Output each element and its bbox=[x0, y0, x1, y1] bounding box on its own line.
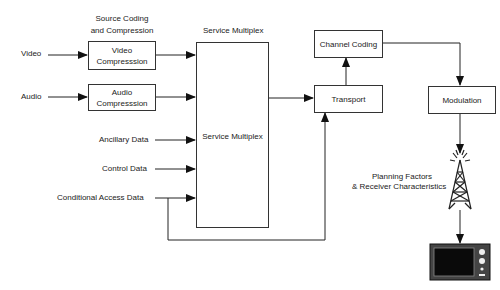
transport-label: Transport bbox=[332, 94, 366, 105]
input-label-conditional-access-data: Conditional Access Data bbox=[57, 193, 144, 203]
service-multiplex-box-label: Service Multiplex bbox=[202, 131, 262, 142]
modulation-label: Modulation bbox=[442, 95, 481, 106]
audio-compression-box: Audio Compresssion bbox=[88, 84, 156, 111]
television-icon bbox=[430, 244, 490, 280]
header-source-coding-line1: Source Coding bbox=[82, 14, 162, 24]
video-compression-box: Video Compresssion bbox=[88, 41, 156, 70]
service-multiplex-box: Service Multiplex bbox=[196, 42, 269, 228]
video-compression-line1: Video bbox=[112, 45, 132, 56]
planning-factors-line2: & Receiver Characteristics bbox=[352, 182, 440, 192]
channel-coding-box: Channel Coding bbox=[314, 30, 383, 58]
input-label-control-data: Control Data bbox=[102, 164, 147, 174]
channel-coding-label: Channel Coding bbox=[320, 39, 377, 50]
header-source-coding-line2: and Compression bbox=[82, 26, 162, 36]
transport-box: Transport bbox=[314, 85, 383, 113]
arrow-channel-to-modulation bbox=[382, 43, 460, 85]
modulation-box: Modulation bbox=[428, 86, 496, 114]
input-label-audio: Audio bbox=[21, 92, 41, 102]
planning-factors-line1: Planning Factors bbox=[352, 172, 440, 182]
input-label-ancillary-data: Ancillary Data bbox=[99, 135, 148, 145]
video-compression-line2: Compresssion bbox=[96, 56, 147, 67]
planning-factors-annotation: Planning Factors & Receiver Characterist… bbox=[352, 172, 440, 192]
transmitter-tower-icon bbox=[449, 150, 471, 209]
audio-compression-line2: Compresssion bbox=[96, 98, 147, 109]
input-label-video: Video bbox=[21, 49, 41, 59]
header-source-coding: Source Coding and Compression bbox=[82, 14, 162, 36]
header-service-multiplex: Service Multiplex bbox=[203, 26, 263, 36]
audio-compression-line1: Audio bbox=[112, 87, 132, 98]
